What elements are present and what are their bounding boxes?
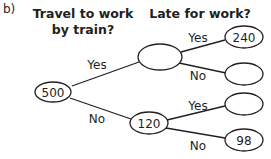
header-travel-by-train-line2: by train?: [52, 22, 114, 37]
header-travel-by-train-line1: Travel to work: [33, 6, 134, 21]
branch-label-root-no: No: [89, 112, 105, 126]
branch-label-no-no: No: [190, 139, 206, 153]
edge-no-no: [166, 128, 225, 138]
node-yes-late-yes: 240: [225, 26, 263, 48]
node-no-late-no: 98: [225, 129, 263, 151]
branch-label-yes-yes: Yes: [187, 31, 207, 45]
node-no-late-yes: [225, 93, 263, 115]
node-yes-late-no: [225, 63, 263, 85]
part-label: b): [3, 2, 15, 16]
node-train-no-value: 120: [138, 117, 161, 131]
frequency-tree-diagram: b) Travel to work by train? Late for wor…: [0, 0, 271, 159]
branch-label-root-yes: Yes: [86, 58, 106, 72]
branch-label-yes-no: No: [190, 69, 206, 83]
header-late-for-work: Late for work?: [149, 6, 251, 21]
node-no-late-no-value: 98: [236, 134, 251, 148]
node-root: 500: [35, 82, 71, 102]
branch-label-no-yes: Yes: [187, 99, 207, 113]
node-yes-late-yes-value: 240: [233, 31, 256, 45]
node-root-value: 500: [42, 86, 65, 100]
node-train-no: 120: [130, 112, 168, 134]
node-train-yes: [138, 44, 182, 70]
